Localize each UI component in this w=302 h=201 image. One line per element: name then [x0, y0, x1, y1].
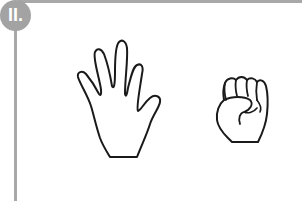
open-hand-icon	[70, 36, 162, 160]
frame-top-border	[18, 0, 302, 3]
frame-left-border	[14, 20, 17, 201]
section-badge: II.	[0, 0, 31, 31]
fist-icon	[210, 74, 274, 146]
